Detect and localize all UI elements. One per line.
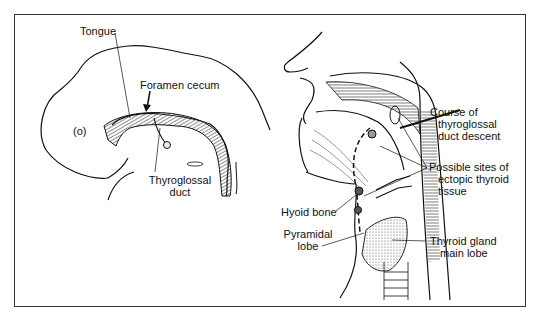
thyroid-gland <box>362 217 407 271</box>
label-tongue: Tongue <box>80 25 116 37</box>
ectopic-leader-1 <box>380 146 427 168</box>
ectopic-leader-2 <box>364 168 427 196</box>
label-mouth-marker: (o) <box>73 125 86 137</box>
foramen-arrowhead <box>143 104 151 112</box>
label-thyroid-main-lobe: Thyroid gland main lobe <box>430 235 497 259</box>
descent-path <box>354 128 370 232</box>
tongue-muscle <box>312 140 366 186</box>
label-course-of-descent: Course of thyroglossal duct descent <box>430 106 500 142</box>
label-hyoid-bone: Hyoid bone <box>281 206 337 218</box>
ectopic-site-hyoid <box>355 187 363 195</box>
embryo-outline-lower <box>236 162 237 194</box>
thyroid-primordium <box>164 142 171 149</box>
label-thyroglossal-duct: Thyroglossal duct <box>148 174 212 198</box>
ectopic-site-infrahyoid <box>355 207 362 214</box>
label-ectopic-sites: Possible sites of ectopic thyroid tissue <box>429 161 509 197</box>
embryo-slit <box>187 162 203 166</box>
label-foramen-cecum: Foramen cecum <box>140 79 219 91</box>
ectopic-site-lingual <box>368 130 376 138</box>
duct-leader <box>155 128 160 172</box>
hyoid-leader <box>336 195 356 211</box>
label-pyramidal-lobe: Pyramidal lobe <box>282 228 334 252</box>
